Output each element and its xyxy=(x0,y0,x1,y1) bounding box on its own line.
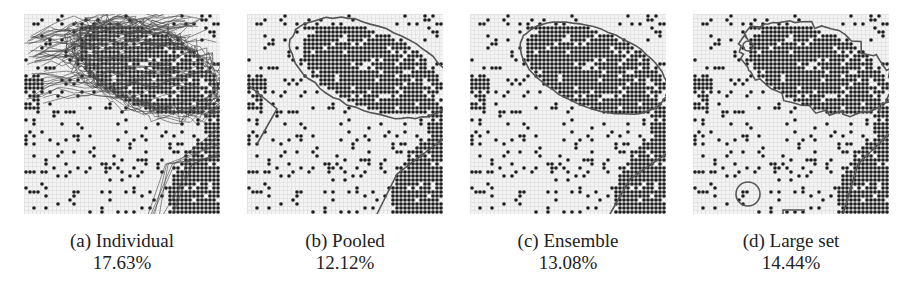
error-rate: 13.08% xyxy=(448,252,688,274)
figure: (a) Individual 17.63% (b) Pooled 12.12% … xyxy=(0,0,911,302)
panel-d-large-set xyxy=(693,14,889,214)
panel-c-ensemble xyxy=(470,14,666,214)
caption-label: (b) Pooled xyxy=(225,230,465,252)
panel-b-pooled xyxy=(247,14,443,214)
panel-a-individual xyxy=(24,14,220,214)
decision-map-individual xyxy=(24,14,220,214)
caption-a: (a) Individual 17.63% xyxy=(2,230,242,274)
caption-c: (c) Ensemble 13.08% xyxy=(448,230,688,274)
decision-map-large-set xyxy=(693,14,889,214)
decision-map-ensemble xyxy=(470,14,666,214)
caption-label: (a) Individual xyxy=(2,230,242,252)
caption-b: (b) Pooled 12.12% xyxy=(225,230,465,274)
caption-d: (d) Large set 14.44% xyxy=(671,230,911,274)
caption-label: (c) Ensemble xyxy=(448,230,688,252)
error-rate: 12.12% xyxy=(225,252,465,274)
error-rate: 14.44% xyxy=(671,252,911,274)
caption-label: (d) Large set xyxy=(671,230,911,252)
decision-map-pooled xyxy=(247,14,443,214)
error-rate: 17.63% xyxy=(2,252,242,274)
